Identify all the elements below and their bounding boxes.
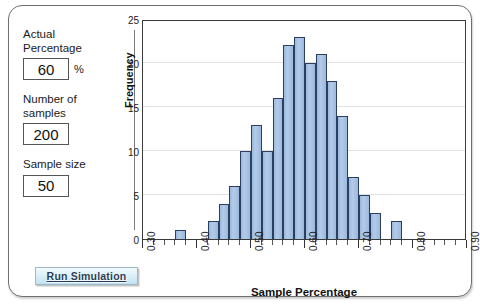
x-axis: 0.300.400.500.600.700.800.90 — [142, 240, 466, 290]
x-axis-major-tick — [358, 240, 359, 248]
y-axis-tick-labels: 0510152025 — [117, 20, 139, 240]
x-axis-tick-label: 0.40 — [200, 232, 211, 251]
actual-percentage-input[interactable]: 60 — [23, 58, 69, 80]
histogram-bar — [262, 151, 273, 239]
y-axis-tick-label: 0 — [133, 235, 139, 246]
x-axis-minor-tick — [164, 240, 165, 245]
y-axis-tick-label: 10 — [128, 147, 139, 158]
x-axis-major-tick — [142, 240, 143, 248]
x-axis-minor-tick — [401, 240, 402, 245]
x-axis-minor-tick — [336, 240, 337, 245]
number-of-samples-input[interactable]: 200 — [23, 123, 69, 145]
x-axis-minor-tick — [228, 240, 229, 245]
histogram-bar — [273, 98, 284, 239]
x-axis-minor-tick — [326, 240, 327, 245]
number-of-samples-row: 200 — [23, 123, 123, 145]
x-axis-tick-label: 0.70 — [362, 232, 373, 251]
x-axis-tick-label: 0.30 — [146, 232, 157, 251]
x-axis-tick-label: 0.90 — [470, 232, 480, 251]
x-axis-minor-tick — [293, 240, 294, 245]
x-axis-minor-tick — [185, 240, 186, 245]
x-axis-major-tick — [304, 240, 305, 248]
actual-percentage-row: 60 % — [23, 58, 123, 80]
x-axis-title: Sample Percentage — [142, 286, 466, 298]
x-axis-tick-label: 0.80 — [416, 232, 427, 251]
run-simulation-button[interactable]: Run Simulation — [35, 267, 138, 285]
x-axis-minor-tick — [444, 240, 445, 245]
simulation-window: Actual Percentage 60 % Number of samples… — [8, 5, 472, 297]
x-axis-major-tick — [250, 240, 251, 248]
x-axis-minor-tick — [218, 240, 219, 245]
histogram-bar — [305, 63, 316, 239]
y-axis-tick-label: 20 — [128, 59, 139, 70]
sample-size-input[interactable]: 50 — [23, 175, 69, 197]
x-axis-minor-tick — [239, 240, 240, 245]
x-axis-major-tick — [196, 240, 197, 248]
histogram-bar — [327, 81, 338, 239]
histogram-bar — [294, 37, 305, 239]
x-axis-minor-tick — [272, 240, 273, 245]
x-axis-minor-tick — [455, 240, 456, 245]
sample-size-row: 50 — [23, 175, 123, 197]
histogram-bar — [251, 125, 262, 239]
histogram-bar — [229, 186, 240, 239]
histogram-bar — [240, 151, 251, 239]
histogram-bar — [175, 230, 186, 239]
x-axis-major-tick — [412, 240, 413, 248]
histogram-bar — [219, 204, 230, 239]
histogram-bar — [283, 45, 294, 239]
histogram-bar — [316, 54, 327, 239]
histogram-bar — [337, 116, 348, 239]
sample-size-label: Sample size — [23, 158, 123, 172]
percent-unit-label: % — [74, 63, 84, 75]
x-axis-major-tick — [466, 240, 467, 248]
y-axis-tick-label: 5 — [133, 191, 139, 202]
x-axis-minor-tick — [434, 240, 435, 245]
x-axis-minor-tick — [282, 240, 283, 245]
plot-area — [142, 20, 466, 240]
histogram-bar — [391, 221, 402, 239]
x-axis-minor-tick — [174, 240, 175, 245]
x-axis-tick-label: 0.60 — [308, 232, 319, 251]
x-axis-minor-tick — [380, 240, 381, 245]
histogram-chart: Frequency 0510152025 0.300.400.500.600.7… — [142, 20, 466, 295]
control-panel: Actual Percentage 60 % Number of samples… — [19, 28, 123, 210]
y-axis-tick-label: 15 — [128, 103, 139, 114]
x-axis-minor-tick — [347, 240, 348, 245]
number-of-samples-label: Number of samples — [23, 93, 123, 120]
histogram-bar — [348, 177, 359, 239]
actual-percentage-label: Actual Percentage — [23, 28, 123, 55]
run-simulation-label: Run Simulation — [47, 270, 127, 282]
x-axis-minor-tick — [390, 240, 391, 245]
x-axis-tick-label: 0.50 — [254, 232, 265, 251]
y-axis-tick-label: 25 — [128, 15, 139, 26]
